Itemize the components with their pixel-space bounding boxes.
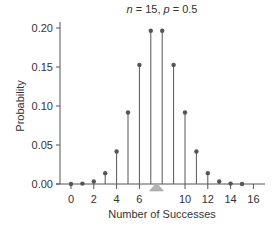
y-tick-label: 0.10 [32, 100, 53, 112]
y-tick-label: 0.05 [32, 139, 53, 151]
x-tick-label: 14 [224, 193, 236, 205]
stem-marker [137, 63, 141, 67]
x-tick-label: 6 [136, 193, 142, 205]
stem-marker [160, 29, 164, 33]
stem-marker [103, 171, 107, 175]
y-axis-label: Probability [14, 80, 26, 132]
x-tick-label: 2 [91, 193, 97, 205]
x-tick-label: 10 [179, 193, 191, 205]
binomial-stem-chart: 0.000.050.100.150.20024610121416n = 15, … [0, 0, 278, 232]
y-tick-label: 0.20 [32, 22, 53, 34]
stem-marker [69, 182, 73, 186]
y-tick-label: 0.00 [32, 178, 53, 190]
x-tick-label: 4 [114, 193, 120, 205]
stem-marker [206, 171, 210, 175]
stem-marker [183, 110, 187, 114]
stem-marker [194, 149, 198, 153]
x-axis-label: Number of Successes [108, 208, 216, 220]
chart-canvas: 0.000.050.100.150.20024610121416n = 15, … [0, 0, 278, 232]
stem-marker [228, 181, 232, 185]
chart-title: n = 15, p = 0.5 [127, 3, 198, 15]
stem-marker [114, 149, 118, 153]
y-tick-label: 0.15 [32, 61, 53, 73]
x-tick-label: 12 [202, 193, 214, 205]
stem-marker [80, 181, 84, 185]
stem-marker [171, 63, 175, 67]
stem-marker [240, 182, 244, 186]
stem-marker [149, 29, 153, 33]
stem-marker [126, 110, 130, 114]
stem-marker [92, 179, 96, 183]
stem-marker [217, 179, 221, 183]
x-tick-label: 0 [68, 193, 74, 205]
x-tick-label: 16 [247, 193, 259, 205]
